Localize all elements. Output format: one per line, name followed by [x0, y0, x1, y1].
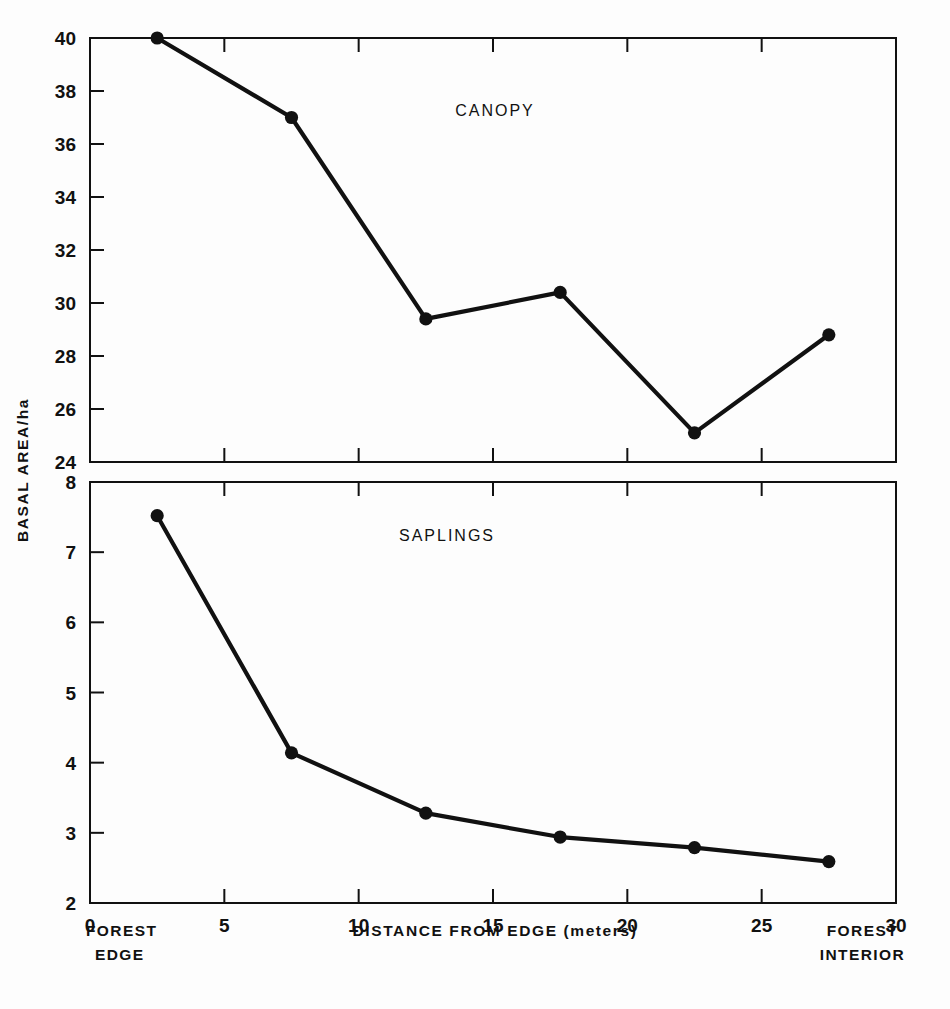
data-point	[822, 328, 835, 341]
y-tick-label: 28	[55, 346, 76, 367]
saplings-y-tick-marks	[90, 552, 104, 833]
y-tick-label: 36	[55, 134, 76, 155]
y-tick-label: 7	[65, 542, 76, 563]
saplings-y-tick-labels: 8765432	[65, 472, 76, 914]
canopy-y-tick-labels: 403836343230282624	[55, 28, 77, 473]
x-axis-title: DISTANCE FROM EDGE (meters)	[353, 922, 638, 939]
saplings-x-tick-marks	[224, 482, 761, 903]
data-point	[151, 509, 164, 522]
chart-canvas: 403836343230282624 CANOPY 8765432 SAPLIN…	[0, 0, 950, 1009]
forest-interior-label-line1: FOREST	[827, 922, 898, 939]
y-tick-label: 34	[55, 187, 77, 208]
data-point	[151, 31, 164, 44]
forest-interior-label-line2: INTERIOR	[820, 946, 905, 963]
data-point	[822, 855, 835, 868]
y-tick-label: 24	[55, 452, 77, 473]
y-tick-label: 2	[65, 893, 76, 914]
data-point	[554, 286, 567, 299]
y-tick-label: 30	[55, 293, 76, 314]
y-tick-label: 38	[55, 81, 76, 102]
saplings-data-line	[157, 516, 829, 862]
y-tick-label: 32	[55, 240, 76, 261]
y-tick-label: 8	[65, 472, 76, 493]
data-point	[688, 426, 701, 439]
forest-edge-label-line2: EDGE	[95, 946, 145, 963]
x-tick-label: 25	[751, 915, 773, 936]
figure-container: 403836343230282624 CANOPY 8765432 SAPLIN…	[0, 0, 950, 1009]
data-point	[285, 111, 298, 124]
panel-canopy: 403836343230282624 CANOPY	[55, 28, 896, 473]
data-point	[419, 807, 432, 820]
canopy-y-tick-marks	[90, 91, 104, 409]
saplings-plot-frame	[90, 482, 896, 903]
y-tick-label: 5	[65, 683, 76, 704]
x-tick-label: 5	[219, 915, 230, 936]
saplings-panel-title: SAPLINGS	[399, 527, 495, 544]
data-point	[419, 312, 432, 325]
data-point	[554, 830, 567, 843]
y-tick-label: 40	[55, 28, 76, 49]
data-point	[285, 746, 298, 759]
canopy-panel-title: CANOPY	[455, 102, 535, 119]
canopy-data-line	[157, 38, 829, 433]
y-tick-label: 26	[55, 399, 76, 420]
data-point	[688, 841, 701, 854]
y-tick-label: 6	[65, 612, 76, 633]
y-axis-title: BASAL AREA/ha	[14, 398, 31, 542]
panel-saplings: 8765432 SAPLINGS	[65, 472, 896, 914]
forest-edge-label-line1: FOREST	[86, 922, 157, 939]
y-tick-label: 3	[65, 823, 76, 844]
y-tick-label: 4	[65, 753, 76, 774]
